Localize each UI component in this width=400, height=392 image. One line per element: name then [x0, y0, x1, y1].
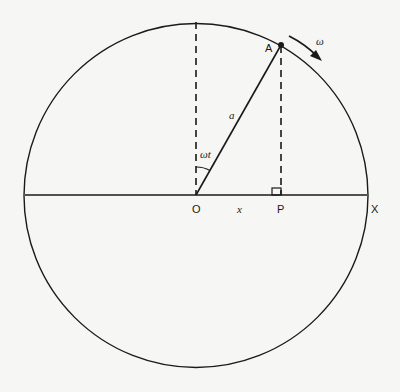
label-radius: a	[229, 109, 235, 121]
phasor-diagram: A O P X a x ωt ω	[0, 0, 400, 392]
point-a-dot	[278, 42, 284, 48]
angle-arc	[196, 167, 210, 171]
label-angular-velocity: ω	[316, 35, 324, 47]
right-angle-marker	[272, 188, 281, 195]
label-origin: O	[192, 203, 201, 215]
label-a-point: A	[265, 42, 273, 54]
label-x-axis: X	[371, 203, 379, 215]
label-displacement: x	[236, 203, 242, 215]
radius-line	[196, 45, 281, 195]
label-p: P	[277, 203, 284, 215]
label-angle: ωt	[200, 148, 212, 160]
